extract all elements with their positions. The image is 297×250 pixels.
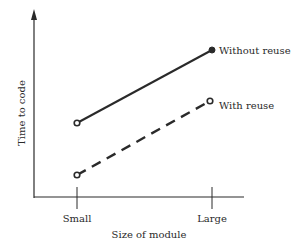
x-axis xyxy=(34,187,244,209)
x-axis-title: Size of module xyxy=(112,229,187,240)
series-with-reuse xyxy=(74,98,213,178)
marker-with-large xyxy=(207,98,213,104)
tick-label-large: Large xyxy=(197,213,227,224)
series-without-reuse xyxy=(74,47,215,126)
marker-without-large xyxy=(209,47,215,53)
label-without-reuse: Without reuse xyxy=(219,45,291,56)
tick-label-small: Small xyxy=(63,213,92,224)
marker-with-small xyxy=(74,172,80,178)
line-chart: Without reuse With reuse Small Large Siz… xyxy=(0,0,297,250)
label-with-reuse: With reuse xyxy=(219,100,274,111)
y-axis-title: Time to code xyxy=(16,80,27,146)
marker-without-small xyxy=(74,120,80,126)
y-axis-arrow-icon xyxy=(31,9,37,20)
y-axis xyxy=(31,9,37,198)
